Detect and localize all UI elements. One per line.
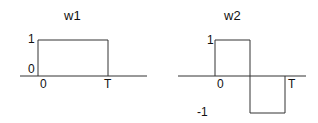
w2-title: w2 (224, 10, 241, 22)
w2-y-high-label: 1 (207, 34, 214, 46)
w1-waveform (20, 40, 147, 76)
w2-waveform (178, 40, 306, 113)
w2-x-end-label: T (288, 78, 295, 90)
w1-y-high-label: 1 (28, 33, 35, 45)
w1-x-end-label: T (104, 78, 111, 90)
w2-x-zero-label: 0 (217, 78, 224, 90)
w2-y-low-label: -1 (197, 106, 208, 118)
waveform-diagrams (0, 0, 318, 123)
w1-x-zero-label: 0 (40, 78, 47, 90)
w1-rectangular-pulse (38, 40, 108, 76)
w1-title: w1 (64, 10, 81, 22)
w1-y-zero-label: 0 (28, 63, 35, 75)
